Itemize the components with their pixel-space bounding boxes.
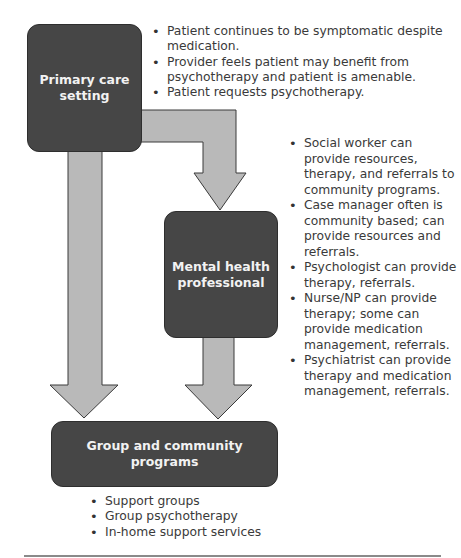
note-item: Patient continues to be symptomatic desp…	[150, 24, 450, 55]
note-item: In-home support services	[88, 525, 308, 540]
bottom-divider	[24, 555, 441, 557]
note-item: Support groups	[88, 494, 308, 509]
primary-care-notes: Patient continues to be symptomatic desp…	[150, 24, 450, 100]
note-item: Group psychotherapy	[88, 509, 308, 524]
arrow-primary-to-group	[50, 150, 118, 418]
arrow-primary-to-mental-health	[140, 110, 246, 210]
mental-health-label-line2: professional	[172, 275, 270, 291]
primary-care-setting-node: Primary care setting	[27, 24, 142, 152]
note-item: Nurse/NP can provide therapy; some can p…	[287, 291, 461, 353]
note-item: Case manager often is community based; c…	[287, 198, 461, 260]
mental-health-label-line1: Mental health	[172, 259, 270, 275]
primary-care-label-line1: Primary care	[39, 72, 129, 88]
note-item: Psychologist can provide therapy, referr…	[287, 260, 461, 291]
group-community-notes: Support groups Group psychotherapy In-ho…	[88, 494, 308, 540]
group-community-programs-node: Group and community programs	[51, 421, 278, 487]
arrow-mental-health-to-group	[185, 337, 252, 419]
group-community-label: Group and community programs	[52, 438, 277, 470]
mental-health-professional-node: Mental health professional	[164, 211, 278, 338]
note-item: Patient requests psychotherapy.	[150, 85, 450, 100]
primary-care-label-line2: setting	[39, 88, 129, 104]
note-item: Psychiatrist can provide therapy and med…	[287, 353, 461, 400]
note-item: Social worker can provide resources, the…	[287, 136, 461, 198]
note-item: Provider feels patient may benefit from …	[150, 55, 450, 86]
mental-health-notes: Social worker can provide resources, the…	[287, 136, 461, 400]
